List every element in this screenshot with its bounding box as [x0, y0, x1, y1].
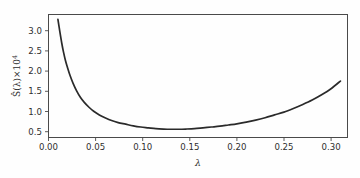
x-tick-label: 0.20	[227, 142, 246, 152]
x-tick-label: 0.05	[86, 142, 105, 152]
data-curve-s-hat	[58, 19, 341, 129]
x-tick-label: 0.15	[180, 142, 199, 152]
y-tick-marks	[45, 31, 49, 132]
x-tick-label: 0.30	[322, 142, 341, 152]
chart-figure: 0.00 0.05 0.10 0.15 0.20 0.25 0.30 0.5 1…	[0, 0, 360, 178]
y-tick-label: 2.5	[28, 46, 42, 56]
axes-frame	[49, 15, 348, 138]
y-tick-label: 0.5	[28, 127, 42, 137]
line-chart: 0.00 0.05 0.10 0.15 0.20 0.25 0.30 0.5 1…	[0, 0, 360, 178]
y-axis-title-base: Ŝ(λ)×10	[11, 59, 22, 97]
x-tick-label: 0.00	[39, 142, 58, 152]
y-tick-label: 1.5	[28, 86, 42, 96]
x-tick-label: 0.10	[133, 142, 152, 152]
y-tick-label: 2.0	[28, 66, 42, 76]
y-axis-title: Ŝ(λ)×104	[11, 55, 22, 97]
y-tick-label: 1.0	[28, 107, 42, 117]
x-tick-marks	[49, 138, 332, 142]
y-tick-label: 3.0	[28, 26, 42, 36]
svg-text:Ŝ(λ)×104: Ŝ(λ)×104	[11, 55, 22, 97]
y-axis-title-exponent: 4	[11, 55, 19, 59]
x-tick-label: 0.25	[274, 142, 293, 152]
x-axis-title: λ	[194, 157, 201, 168]
x-tick-labels: 0.00 0.05 0.10 0.15 0.20 0.25 0.30	[39, 142, 341, 152]
y-tick-labels: 0.5 1.0 1.5 2.0 2.5 3.0	[28, 26, 42, 137]
